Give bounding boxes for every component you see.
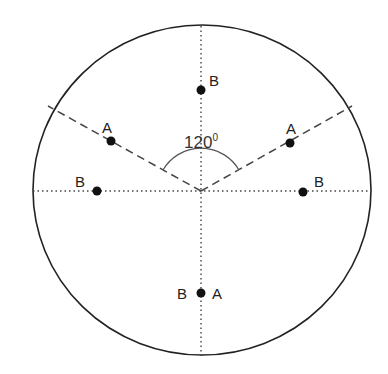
dashed-line-left — [48, 106, 201, 191]
point-top-b — [197, 86, 206, 95]
point-right-b — [299, 188, 308, 197]
point-left-a — [107, 137, 116, 146]
dashed-line-right — [201, 106, 352, 191]
label-left-a: A — [102, 119, 112, 136]
angle-diagram: 1200 B A A B B B A — [0, 0, 388, 374]
label-top-b: B — [209, 72, 219, 89]
label-bottom-b: B — [177, 285, 187, 302]
label-bottom-a: A — [212, 285, 222, 302]
point-bottom-ab — [197, 289, 206, 298]
point-right-a — [286, 139, 295, 148]
angle-label: 1200 — [184, 132, 218, 152]
point-left-b — [93, 187, 102, 196]
diagram-canvas: 1200 B A A B B B A — [0, 0, 388, 374]
label-right-a: A — [286, 120, 296, 137]
label-right-b: B — [314, 173, 324, 190]
label-left-b: B — [75, 173, 85, 190]
